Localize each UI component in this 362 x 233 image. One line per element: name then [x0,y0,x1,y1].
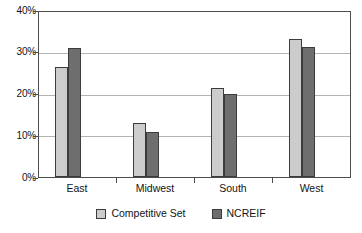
legend-item-competitive-set: Competitive Set [96,208,185,219]
bar-competitive-set-west [289,39,302,177]
bar-ncreif-midwest [146,132,159,177]
x-axis-label-west: West [272,182,351,194]
x-axis-label-midwest: Midwest [116,182,194,194]
legend-label: NCREIF [227,208,266,219]
bar-group-east [39,12,117,177]
chart-legend: Competitive Set NCREIF [0,208,362,219]
y-axis-tickmark [33,178,38,179]
bar-competitive-set-south [211,88,224,177]
bar-ncreif-east [68,48,81,177]
legend-label: Competitive Set [111,208,185,219]
x-axis-label-east: East [38,182,116,194]
legend-swatch-icon [96,209,106,219]
legend-swatch-icon [212,209,222,219]
y-axis-tick-label: 40% [2,6,36,16]
bar-ncreif-west [302,47,315,177]
bar-group-south [195,12,273,177]
x-axis-label-south: South [194,182,272,194]
bar-competitive-set-east [55,67,68,177]
y-axis-tick-label: 30% [2,47,36,57]
bar-group-west [273,12,351,177]
bar-group-midwest [117,12,195,177]
y-axis-tick-label: 0% [2,173,36,183]
bar-competitive-set-midwest [133,123,146,177]
legend-item-ncreif: NCREIF [212,208,266,219]
plot-area [38,11,351,178]
y-axis-tick-label: 10% [2,131,36,141]
y-axis-tick-label: 20% [2,89,36,99]
bar-chart: 40% 30% 20% 10% 0% East Mid [0,0,362,233]
bar-ncreif-south [224,94,237,177]
